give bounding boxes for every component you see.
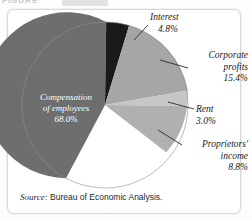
slice-label-corporate-line1: Corporate <box>208 50 248 60</box>
slice-label-rent-value: 3.0% <box>196 116 216 126</box>
slice-label-corporate-line2: profits <box>224 62 248 72</box>
slice-label-compensation-value: 68.0% <box>54 114 77 124</box>
slice-label-interest: Interest 4.8% <box>150 12 179 35</box>
slice-label-proprietors-line1: Proprietors' <box>202 139 248 149</box>
source-prefix: Source: <box>20 192 48 202</box>
source-note: Source: Bureau of Economic Analysis. <box>20 192 162 202</box>
slice-label-interest-value: 4.8% <box>158 24 179 36</box>
slice-label-proprietors: Proprietors' income 8.8% <box>182 139 248 174</box>
slice-label-corporate-value: 15.4% <box>223 73 248 83</box>
slice-label-interest-name: Interest <box>150 12 179 22</box>
slice-label-compensation-line2: of employees <box>43 103 90 113</box>
slice-label-corporate: Corporate profits 15.4% <box>190 50 248 85</box>
figure-container: FIGURE Interest 4.8% Corpor <box>0 0 252 220</box>
slice-label-proprietors-line2: income <box>221 151 248 161</box>
slice-label-compensation: Compensation of employees 68.0% <box>24 92 108 125</box>
slice-label-rent-name: Rent <box>196 104 213 114</box>
slice-label-rent: Rent 3.0% <box>196 104 248 127</box>
slice-label-compensation-line1: Compensation <box>40 92 92 102</box>
pie-slice-proprietors <box>105 105 187 152</box>
source-text: Bureau of Economic Analysis. <box>50 192 162 202</box>
slice-label-proprietors-value: 8.8% <box>228 162 248 172</box>
